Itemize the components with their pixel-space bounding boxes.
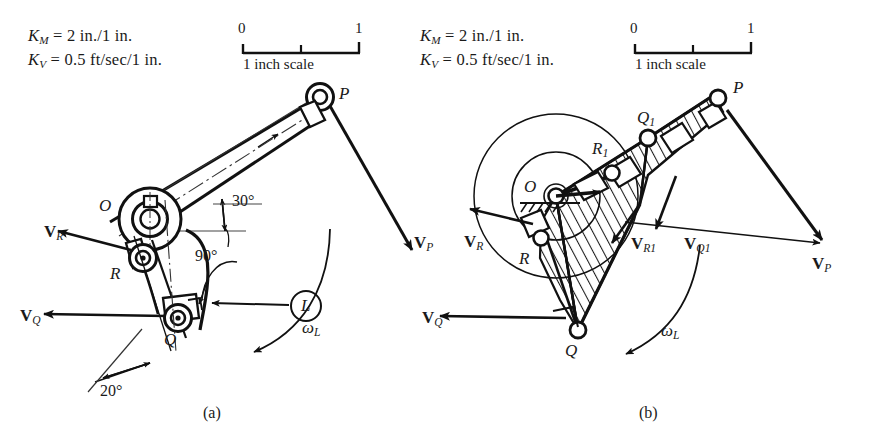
legend-b-kv-value: = 0.5 ft/sec/1 in. [443, 50, 554, 69]
scale-a-tick-0: 0 [238, 20, 246, 37]
point-label-b-P: P [733, 78, 743, 98]
legend-a-kv-subscript: V [39, 58, 46, 70]
legend-b-km-value: = 2 in./1 in. [445, 26, 524, 45]
legend-b-km: KM = 2 in./1 in. [420, 26, 524, 46]
legend-a-km: KM = 2 in./1 in. [28, 26, 132, 46]
vector-b-VP-symbol: V [812, 254, 824, 273]
mechanism-b [440, 90, 822, 354]
scale-b-caption: 1 inch scale [635, 56, 706, 73]
vector-label-b-VP: VP [812, 254, 831, 275]
point-label-b-O: O [524, 177, 536, 197]
legend-b-kv: KV = 0.5 ft/sec/1 in. [420, 50, 554, 70]
legend-a-kv: KV = 0.5 ft/sec/1 in. [28, 50, 162, 70]
scale-bar-b [635, 42, 752, 54]
legend-b-kv-symbol: K [420, 50, 431, 69]
legend-b-km-symbol: K [420, 26, 431, 45]
point-b-Q1-subscript: 1 [649, 115, 655, 129]
caption-a: (a) [203, 404, 221, 422]
figure-root: KM = 2 in./1 in. KV = 0.5 ft/sec/1 in. K… [0, 0, 872, 442]
scale-b-tick-1: 1 [747, 20, 755, 37]
omega-b-subscript: L [673, 329, 679, 342]
scale-bar-a [243, 42, 360, 54]
vector-b-VQ1-subscript: Q [696, 242, 704, 255]
vector-b-VR1-subscript-2: 1 [650, 242, 656, 255]
legend-a-km-subscript: M [39, 34, 49, 46]
vector-a-VR-symbol: V [44, 222, 56, 241]
vector-label-a-VR: VR [44, 222, 63, 243]
link-balloon-label-a: L [301, 296, 310, 316]
legend-a-kv-value: = 0.5 ft/sec/1 in. [51, 50, 162, 69]
point-b-Q1-symbol: Q [637, 108, 649, 127]
vector-label-b-VR: VR [464, 232, 483, 253]
vector-b-VR1-symbol: V [631, 234, 643, 253]
point-label-a-R: R [110, 264, 120, 284]
legend-b-km-subscript: M [431, 34, 441, 46]
legend-b-kv-subscript: V [431, 58, 438, 70]
vector-b-VQ1-subscript-2: 1 [705, 242, 711, 255]
point-b-R1-subscript: 1 [602, 146, 608, 160]
point-label-a-P: P [339, 84, 349, 104]
omega-a-symbol: ω [302, 318, 314, 337]
angle-label-a-30: 30° [232, 192, 254, 210]
vector-a-VP-subscript: P [426, 241, 433, 254]
point-b-R1-symbol: R [592, 139, 602, 158]
point-label-a-Q: Q [164, 330, 176, 350]
legend-a-kv-symbol: K [28, 50, 39, 69]
vector-b-VQ-subscript: Q [434, 316, 442, 329]
point-label-b-Q: Q [565, 341, 577, 361]
caption-b: (b) [639, 404, 658, 422]
scale-b-tick-0: 0 [630, 20, 638, 37]
legend-a-km-value: = 2 in./1 in. [53, 26, 132, 45]
vector-a-VQ-subscript: Q [32, 314, 40, 327]
angle-label-a-20: 20° [100, 382, 122, 400]
omega-label-a: ωL [302, 318, 320, 339]
vector-a-VQ-symbol: V [20, 306, 32, 325]
point-label-a-O: O [99, 196, 111, 216]
scale-a-tick-1: 1 [355, 20, 363, 37]
point-label-b-R1: R1 [592, 139, 608, 161]
vector-b-VR-symbol: V [464, 232, 476, 251]
angle-label-a-90: 90° [195, 247, 217, 265]
vector-label-b-VQ1: VQ1 [684, 234, 710, 255]
vector-label-a-VP: VP [414, 233, 433, 254]
vector-a-VR-subscript: R [56, 230, 63, 243]
vector-a-VP-symbol: V [414, 233, 426, 252]
omega-label-b: ωL [661, 321, 679, 342]
vector-label-a-VQ: VQ [20, 306, 41, 327]
vector-b-VQ1-symbol: V [684, 234, 696, 253]
vector-label-b-VR1: VR1 [631, 234, 656, 255]
point-label-b-R: R [519, 249, 529, 269]
vector-b-VR-subscript: R [476, 240, 483, 253]
vector-label-b-VQ: VQ [422, 308, 443, 329]
angle-20-arrows [103, 363, 150, 378]
scale-a-caption: 1 inch scale [243, 56, 314, 73]
mechanism-a [44, 84, 412, 393]
omega-a-subscript: L [314, 326, 320, 339]
point-label-b-Q1: Q1 [637, 108, 655, 130]
omega-b-symbol: ω [661, 321, 673, 340]
vector-b-VQ-symbol: V [422, 308, 434, 327]
vector-b-VP-subscript: P [824, 262, 831, 275]
legend-a-km-symbol: K [28, 26, 39, 45]
